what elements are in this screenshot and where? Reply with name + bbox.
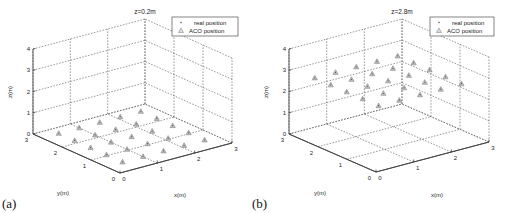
- real-position-marker: [330, 84, 331, 85]
- real-position-marker: [346, 91, 347, 92]
- real-position-marker: [392, 68, 393, 69]
- x-tick-label: 0: [122, 176, 126, 182]
- y-tick-label: 2: [310, 150, 314, 156]
- real-position-marker: [372, 73, 373, 74]
- x-tick-label: 2: [197, 156, 201, 162]
- y-tick-label: 3: [25, 137, 29, 143]
- floor-grid-line: [347, 129, 460, 159]
- x-tick-label: 2: [454, 155, 458, 161]
- legend-real-label: real position: [194, 20, 226, 26]
- real-position-marker: [403, 87, 404, 88]
- y-axis-label: y(m): [314, 190, 326, 196]
- x-axis-label: x(m): [174, 192, 186, 198]
- chart-title: z=0.2m: [134, 8, 156, 15]
- z-tick-label: 3: [27, 67, 31, 73]
- y-tick-label: 0: [112, 176, 116, 182]
- real-position-marker: [356, 66, 357, 67]
- y-tick-label: 1: [83, 163, 87, 169]
- wall-grid-line: [33, 83, 145, 113]
- real-position-marker: [419, 94, 420, 95]
- wall-grid-line: [145, 104, 232, 143]
- real-position-marker: [378, 105, 379, 106]
- x-axis-label: x(m): [431, 192, 443, 198]
- real-position-marker: [314, 77, 315, 78]
- wall-grid-line: [145, 83, 232, 122]
- z-tick-label: 1: [27, 110, 31, 116]
- z-axis-label: z(m): [263, 86, 269, 98]
- panel-a-chart: 0123401230123z(m)y(m)x(m)z=0.2mreal posi…: [2, 8, 238, 211]
- real-position-marker: [99, 122, 100, 123]
- real-position-marker: [122, 161, 123, 162]
- z-tick-mark: [289, 48, 292, 49]
- legend-real-marker-icon: [438, 22, 440, 24]
- legend-real-marker-icon: [180, 22, 182, 24]
- real-position-marker: [399, 100, 400, 101]
- real-position-marker: [204, 139, 205, 140]
- wall-grid-line: [33, 62, 145, 92]
- real-position-marker: [156, 118, 157, 119]
- real-position-marker: [142, 156, 143, 157]
- real-position-marker: [126, 149, 127, 150]
- real-position-marker: [74, 140, 75, 141]
- y-tick-label: 2: [54, 150, 58, 156]
- real-position-marker: [90, 147, 91, 148]
- real-position-marker: [424, 82, 425, 83]
- z-tick-label: 2: [283, 88, 287, 94]
- real-position-marker: [147, 143, 148, 144]
- real-position-marker: [172, 125, 173, 126]
- x-tick-label: 1: [160, 166, 164, 172]
- y-axis-label: y(m): [57, 190, 69, 196]
- x-tick-label: 0: [378, 175, 382, 181]
- real-position-marker: [440, 89, 441, 90]
- real-position-marker: [367, 86, 368, 87]
- x-tick-label: 3: [234, 146, 238, 152]
- x-tick-label: 3: [491, 145, 495, 151]
- chart-title: z=2.8m: [391, 8, 413, 15]
- panel-label: (b): [252, 196, 267, 211]
- real-position-marker: [388, 80, 389, 81]
- y-tick-label: 3: [281, 137, 285, 143]
- real-position-marker: [188, 132, 189, 133]
- real-position-marker: [131, 136, 132, 137]
- floor-grid-line: [318, 117, 431, 147]
- real-position-marker: [95, 134, 96, 135]
- real-position-marker: [152, 130, 153, 131]
- real-position-marker: [362, 98, 363, 99]
- wall-grid-line: [402, 40, 489, 78]
- wall-grid-line: [33, 19, 145, 49]
- y-tick-label: 1: [339, 162, 343, 168]
- wall-grid-line: [402, 83, 489, 121]
- real-position-marker: [58, 133, 59, 134]
- z-tick-label: 2: [27, 89, 31, 95]
- real-position-marker: [111, 141, 112, 142]
- legend-real-label: real position: [452, 20, 484, 26]
- real-position-marker: [351, 79, 352, 80]
- real-position-marker: [79, 127, 80, 128]
- real-position-marker: [445, 76, 446, 77]
- legend-aco-label: ACO position: [447, 28, 482, 34]
- z-tick-label: 3: [283, 67, 287, 73]
- real-position-marker: [183, 145, 184, 146]
- real-position-marker: [413, 62, 414, 63]
- wall-grid-line: [33, 104, 145, 134]
- real-position-marker: [168, 138, 169, 139]
- wall-grid-line: [33, 40, 145, 70]
- z-tick-mark: [33, 48, 36, 49]
- real-position-marker: [120, 116, 121, 117]
- real-position-marker: [429, 69, 430, 70]
- real-position-marker: [461, 83, 462, 84]
- wall-grid-line: [145, 40, 232, 79]
- wall-grid-line: [402, 62, 489, 100]
- z-tick-label: 1: [283, 110, 287, 116]
- wall-grid-line: [289, 104, 402, 134]
- real-position-marker: [397, 55, 398, 56]
- wall-grid-line: [145, 62, 232, 101]
- legend-aco-label: ACO position: [189, 28, 224, 34]
- panel-label: (a): [2, 196, 16, 211]
- real-position-marker: [376, 61, 377, 62]
- real-position-marker: [115, 129, 116, 130]
- real-position-marker: [383, 93, 384, 94]
- z-tick-label: 4: [27, 46, 31, 52]
- x-tick-label: 1: [416, 165, 420, 171]
- x-axis-line: [376, 142, 489, 172]
